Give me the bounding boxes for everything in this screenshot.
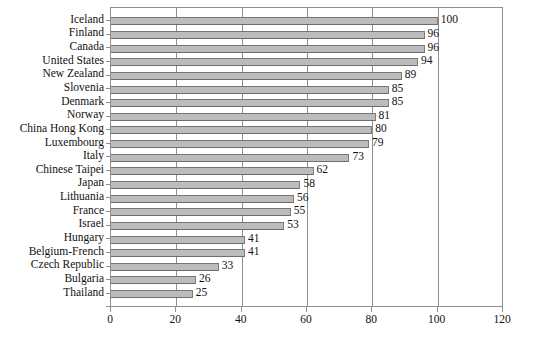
plot-area: 1009696948985858180797362585655534141332…	[110, 7, 503, 307]
bar-value-label: 41	[248, 245, 260, 258]
bar-israel	[111, 222, 284, 230]
bar-value-label: 25	[196, 286, 208, 299]
y-axis-tick	[106, 197, 110, 198]
bar-row: 73	[111, 151, 502, 165]
bar-row: 100	[111, 14, 502, 28]
bar-rows: 1009696948985858180797362585655534141332…	[111, 8, 502, 306]
category-label-italy: Italy	[0, 149, 104, 162]
x-axis-tick-60	[306, 307, 307, 312]
bar-row: 58	[111, 178, 502, 192]
category-label-hungary: Hungary	[0, 231, 104, 244]
bar-row: 62	[111, 164, 502, 178]
category-label-israel: Israel	[0, 217, 104, 230]
y-axis-tick	[106, 143, 110, 144]
bar-lithuania	[111, 195, 294, 203]
bar-row: 96	[111, 42, 502, 56]
bar-row: 80	[111, 123, 502, 137]
y-axis-tick	[106, 75, 110, 76]
x-axis-tick-80	[371, 307, 372, 312]
bar-japan	[111, 181, 300, 189]
x-axis-tick-20	[175, 307, 176, 312]
bar-value-label: 94	[421, 54, 433, 67]
bar-value-label: 100	[441, 13, 458, 26]
bar-denmark	[111, 99, 389, 107]
x-axis-tick-120	[502, 307, 503, 312]
bar-row: 89	[111, 69, 502, 83]
y-axis-tick	[106, 102, 110, 103]
y-axis-tick	[106, 129, 110, 130]
bar-value-label: 85	[392, 95, 404, 108]
y-axis-tick	[106, 184, 110, 185]
bar-value-label: 85	[392, 82, 404, 95]
bar-united-states	[111, 58, 418, 66]
bar-belgium-french	[111, 249, 245, 257]
bar-luxembourg	[111, 140, 369, 148]
bar-row: 81	[111, 110, 502, 124]
bar-row: 79	[111, 137, 502, 151]
bar-row: 33	[111, 260, 502, 274]
category-label-luxembourg: Luxembourg	[0, 136, 104, 149]
bar-row: 85	[111, 96, 502, 110]
bar-value-label: 79	[372, 136, 384, 149]
bar-france	[111, 208, 291, 216]
bar-row: 55	[111, 205, 502, 219]
bar-row: 96	[111, 28, 502, 42]
x-axis-tick-0	[110, 307, 111, 312]
category-label-new-zealand: New Zealand	[0, 67, 104, 80]
category-label-norway: Norway	[0, 108, 104, 121]
y-axis-tick	[106, 61, 110, 62]
bar-row: 41	[111, 246, 502, 260]
y-axis-tick	[106, 266, 110, 267]
category-label-belgium-french: Belgium-French	[0, 245, 104, 258]
category-label-united-states: United States	[0, 54, 104, 67]
bar-value-label: 89	[405, 68, 417, 81]
category-label-iceland: Iceland	[0, 13, 104, 26]
category-axis-labels: IcelandFinlandCanadaUnited StatesNew Zea…	[0, 7, 104, 307]
bar-norway	[111, 113, 376, 121]
category-label-denmark: Denmark	[0, 95, 104, 108]
bar-thailand	[111, 290, 193, 298]
bar-value-label: 96	[428, 41, 440, 54]
y-axis-tick	[106, 293, 110, 294]
category-label-japan: Japan	[0, 176, 104, 189]
bar-czech-republic	[111, 263, 219, 271]
bar-value-label: 96	[428, 27, 440, 40]
bar-iceland	[111, 17, 438, 25]
category-label-czech-republic: Czech Republic	[0, 258, 104, 271]
x-axis-tick-label-20: 20	[170, 313, 182, 326]
bar-row: 26	[111, 273, 502, 287]
y-axis-tick	[106, 116, 110, 117]
bar-row: 56	[111, 192, 502, 206]
bar-chart-figure: IcelandFinlandCanadaUnited StatesNew Zea…	[0, 0, 537, 343]
y-axis-tick	[106, 279, 110, 280]
bar-value-label: 62	[317, 163, 329, 176]
x-axis-tick-label-0: 0	[107, 313, 113, 326]
bar-value-label: 33	[222, 259, 234, 272]
bar-row: 85	[111, 83, 502, 97]
x-axis-tick-label-100: 100	[428, 313, 445, 326]
category-label-finland: Finland	[0, 26, 104, 39]
x-axis-tick-label-80: 80	[366, 313, 378, 326]
bar-canada	[111, 45, 425, 53]
bar-value-label: 55	[294, 204, 306, 217]
category-label-china-hong-kong: China Hong Kong	[0, 122, 104, 135]
x-axis-tick-label-40: 40	[235, 313, 247, 326]
bar-row: 25	[111, 287, 502, 301]
y-axis-tick	[106, 225, 110, 226]
bar-value-label: 53	[287, 218, 299, 231]
category-label-bulgaria: Bulgaria	[0, 272, 104, 285]
bar-italy	[111, 154, 349, 162]
bar-value-label: 56	[297, 191, 309, 204]
y-axis-tick	[106, 20, 110, 21]
category-label-lithuania: Lithuania	[0, 190, 104, 203]
bar-finland	[111, 31, 425, 39]
category-label-france: France	[0, 204, 104, 217]
category-label-thailand: Thailand	[0, 286, 104, 299]
bar-hungary	[111, 236, 245, 244]
x-axis-tick-100	[437, 307, 438, 312]
bar-value-label: 81	[379, 109, 391, 122]
y-axis-tick	[106, 252, 110, 253]
bar-value-label: 58	[303, 177, 315, 190]
category-label-canada: Canada	[0, 40, 104, 53]
category-label-chinese-taipei: Chinese Taipei	[0, 163, 104, 176]
